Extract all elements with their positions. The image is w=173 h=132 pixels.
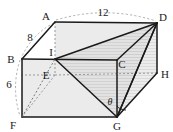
angle-label-theta: θ (108, 96, 113, 107)
angle-label-group: θ (108, 96, 113, 107)
vertex-label-A: A (42, 10, 50, 22)
vertex-label-C: C (118, 58, 125, 70)
geometry-figure: A B C D E F G H I 8 12 6 θ (0, 0, 173, 132)
vertex-label-I: I (49, 46, 53, 58)
dimension-label-AD: 12 (98, 6, 109, 18)
vertex-label-D: D (159, 11, 167, 23)
dimension-label-AB: 8 (27, 31, 33, 43)
vertex-label-G: G (113, 120, 121, 132)
arc-BF (16, 60, 21, 116)
edge-B-C (22, 59, 117, 60)
dimension-label-BF: 6 (6, 78, 12, 90)
vertex-label-F: F (10, 119, 16, 131)
vertex-label-H: H (161, 68, 169, 80)
edge-A-D (55, 22, 157, 23)
vertex-label-E: E (43, 69, 50, 81)
vertex-label-B: B (7, 53, 14, 65)
prism-diagram-canvas: A B C D E F G H I 8 12 6 θ (0, 0, 173, 132)
